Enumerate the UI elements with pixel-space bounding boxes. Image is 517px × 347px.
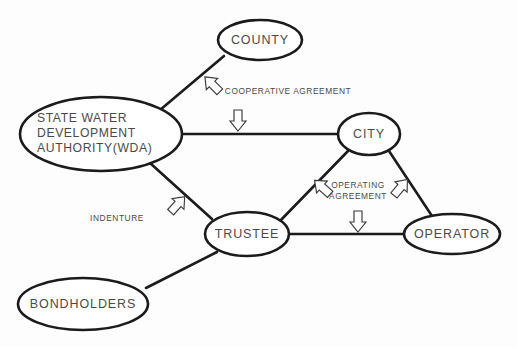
annotation-indenture: INDENTURE — [90, 191, 191, 223]
node-county[interactable]: COUNTY — [218, 20, 302, 60]
node-wda[interactable]: STATE WATER DEVELOPMENT AUTHORITY(WDA) — [20, 97, 182, 171]
indenture-label: INDENTURE — [90, 213, 144, 223]
edge-city-operator — [389, 151, 434, 219]
edge-trustee-bondholders — [146, 252, 217, 288]
operating-agreement-label-line-1: OPERATING — [331, 180, 385, 190]
diagram-canvas: COUNTY STATE WATER DEVELOPMENT AUTHORITY… — [0, 0, 517, 347]
relationship-diagram: COUNTY STATE WATER DEVELOPMENT AUTHORITY… — [0, 0, 517, 347]
node-trustee[interactable]: TRUSTEE — [205, 212, 289, 256]
annotation-operating-agreement: OPERATING AGREEMENT — [309, 174, 413, 232]
node-wda-label-line-3: AUTHORITY(WDA) — [37, 141, 152, 155]
node-operator[interactable]: OPERATOR — [404, 214, 500, 254]
node-operator-label: OPERATOR — [414, 227, 490, 241]
node-city[interactable]: CITY — [338, 113, 400, 155]
node-layer: COUNTY STATE WATER DEVELOPMENT AUTHORITY… — [18, 20, 500, 330]
edge-wda-trustee — [150, 163, 212, 219]
node-trustee-label: TRUSTEE — [215, 227, 280, 241]
operating-agreement-label-line-2: AGREEMENT — [329, 191, 387, 201]
arrow-down-icon — [230, 110, 246, 131]
node-wda-label-line-2: DEVELOPMENT — [37, 126, 136, 140]
node-bondholders[interactable]: BONDHOLDERS — [18, 278, 148, 330]
arrow-up-right-icon — [388, 174, 414, 200]
arrow-down-icon — [350, 211, 366, 232]
node-wda-label-line-1: STATE WATER — [37, 111, 127, 125]
node-city-label: CITY — [353, 127, 385, 141]
cooperative-agreement-label: COOPERATIVE AGREEMENT — [225, 86, 351, 96]
annotation-cooperative-agreement: COOPERATIVE AGREEMENT — [199, 71, 351, 131]
node-bondholders-label: BONDHOLDERS — [30, 297, 136, 311]
node-county-label: COUNTY — [231, 33, 289, 47]
